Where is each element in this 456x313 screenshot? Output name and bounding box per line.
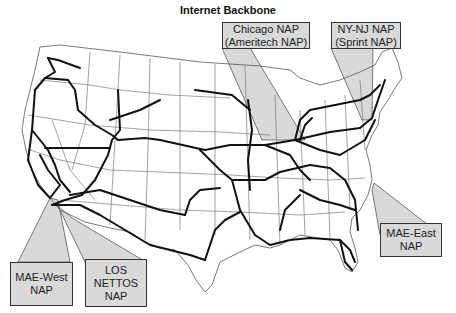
callout-mae-east-nap: MAE-East NAP (380, 223, 442, 257)
maewest-wedge (18, 198, 70, 262)
callout-maewest-line2: NAP (30, 284, 53, 297)
callout-maeeast-line2: NAP (400, 240, 423, 253)
callout-maeeast-line1: MAE-East (386, 227, 436, 240)
nynj-wedge (331, 48, 373, 120)
callout-maewest-line1: MAE-West (15, 271, 67, 284)
callout-wedges (18, 48, 441, 262)
callout-mae-west-nap: MAE-West NAP (10, 262, 73, 306)
callout-chicago-nap: Chicago NAP (Ameritech NAP) (222, 22, 310, 49)
us-outline (22, 45, 402, 292)
callout-nynj-nap: NY-NJ NAP (Sprint NAP) (331, 22, 401, 49)
callout-losnettos-line3: NAP (105, 290, 128, 303)
chicago-wedge (222, 48, 305, 140)
callout-nynj-line1: NY-NJ NAP (337, 23, 394, 36)
callout-nynj-line2: (Sprint NAP) (335, 36, 397, 49)
callout-los-nettos-nap: LOS NETTOS NAP (85, 259, 147, 307)
callout-chicago-line2: (Ameritech NAP) (225, 36, 308, 49)
callout-losnettos-line1: LOS (105, 264, 127, 277)
callout-chicago-line1: Chicago NAP (233, 23, 299, 36)
callout-losnettos-line2: NETTOS (94, 277, 138, 290)
